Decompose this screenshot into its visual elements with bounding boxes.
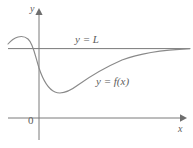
x-axis-arrowhead: [180, 114, 187, 122]
y-axis-label: y: [30, 4, 34, 14]
y-axis-arrowhead: [35, 8, 42, 15]
x-axis-label: x: [178, 124, 182, 134]
asymptote-label: y = L: [75, 34, 99, 45]
origin-label: 0: [28, 115, 34, 126]
limit-graph-figure: y x 0 y = L y = f(x): [0, 0, 193, 148]
curve-label: y = f(x): [96, 76, 129, 87]
